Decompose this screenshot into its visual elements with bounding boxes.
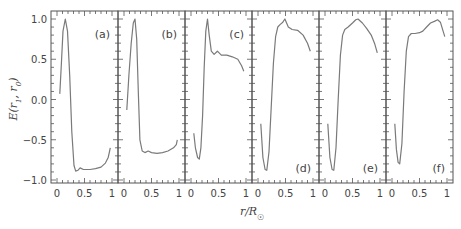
x-tick-label: 1	[310, 188, 316, 199]
multi-panel-line-chart: 1.00.50.0−0.5−1.0 E(r1, r0) 00.51(a)00.5…	[0, 0, 461, 229]
y-tick-label: 1.0	[31, 14, 47, 25]
x-tick-label: 1	[377, 188, 383, 199]
y-tick-label: −0.5	[23, 135, 47, 146]
panel-e: 00.51(e)	[319, 11, 386, 199]
panel-c: 00.51(c)	[185, 11, 252, 199]
y-tick-label: −1.0	[23, 175, 47, 186]
panel-label: (b)	[161, 28, 177, 41]
x-tick-label: 1	[444, 188, 450, 199]
panel-frame	[386, 11, 453, 183]
series-line	[395, 20, 445, 164]
x-tick-label: 0.5	[77, 188, 93, 199]
panel-label: (a)	[95, 28, 110, 41]
x-tick-label: 0	[255, 188, 261, 199]
panel-b: 00.51(b)	[118, 11, 185, 199]
series-line	[60, 19, 111, 171]
panel-label: (d)	[295, 162, 311, 175]
y-tick-label: 0.5	[31, 54, 47, 65]
x-tick-label: 0	[322, 188, 328, 199]
x-tick-label: 0.5	[211, 188, 227, 199]
x-tick-label: 0	[389, 188, 395, 199]
panel-a: 00.51(a)	[51, 11, 118, 199]
x-tick-label: 0.5	[278, 188, 294, 199]
x-tick-label: 0.5	[412, 188, 428, 199]
x-tick-label: 0	[121, 188, 127, 199]
y-axis-tick-labels: 1.00.50.0−0.5−1.0	[23, 14, 47, 186]
series-line	[328, 19, 378, 170]
panel-f: 00.51(f)	[386, 11, 453, 199]
panels: 00.51(a)00.51(b)00.51(c)00.51(d)00.51(e)…	[51, 11, 453, 199]
x-tick-label: 1	[243, 188, 249, 199]
y-tick-label: 0.0	[31, 95, 47, 106]
y-axis-title: E(r1, r0)	[7, 77, 23, 121]
x-axis-title: r/R☉	[240, 205, 264, 222]
x-tick-label: 0.5	[345, 188, 361, 199]
x-tick-label: 1	[109, 188, 115, 199]
panel-d: 00.51(d)	[252, 11, 319, 199]
series-line	[261, 19, 311, 170]
x-tick-label: 0	[188, 188, 194, 199]
x-tick-label: 0.5	[144, 188, 160, 199]
x-tick-label: 1	[176, 188, 182, 199]
panel-label: (e)	[363, 162, 378, 175]
x-tick-label: 0	[54, 188, 60, 199]
panel-label: (f)	[433, 162, 445, 175]
panel-label: (c)	[229, 28, 244, 41]
panel-frame	[319, 11, 386, 183]
panel-frame	[252, 11, 319, 183]
